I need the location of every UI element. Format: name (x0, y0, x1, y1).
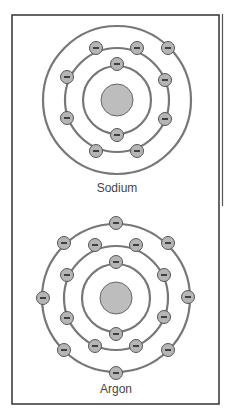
electron (61, 71, 74, 84)
electron (131, 145, 144, 158)
electron (61, 269, 74, 282)
electron (159, 74, 172, 87)
electron (61, 312, 74, 325)
electron (162, 42, 175, 55)
electron (159, 113, 172, 126)
atoms-group (37, 26, 195, 380)
electron (37, 292, 50, 305)
sodium-atom (43, 26, 191, 174)
nucleus (101, 84, 133, 116)
electron (89, 340, 102, 353)
electron (90, 145, 103, 158)
figure-frame (12, 15, 219, 404)
atom-diagram: Sodium Argon (0, 0, 225, 414)
electron (162, 344, 175, 357)
electron (110, 328, 123, 341)
electron (58, 237, 71, 250)
electron (58, 344, 71, 357)
argon-atom (37, 217, 195, 380)
electron (61, 112, 74, 125)
electron (162, 237, 175, 250)
electron (89, 239, 102, 252)
electron (158, 311, 171, 324)
electron (130, 239, 143, 252)
electron (130, 340, 143, 353)
electron (110, 256, 123, 269)
electron (110, 217, 123, 230)
electron (182, 291, 195, 304)
electron (111, 58, 124, 71)
electron (90, 42, 103, 55)
electron (111, 129, 124, 142)
sodium-label: Sodium (97, 181, 138, 195)
electron (158, 269, 171, 282)
electron (131, 42, 144, 55)
electron (110, 367, 123, 380)
argon-label: Argon (100, 382, 132, 396)
nucleus (100, 282, 132, 314)
